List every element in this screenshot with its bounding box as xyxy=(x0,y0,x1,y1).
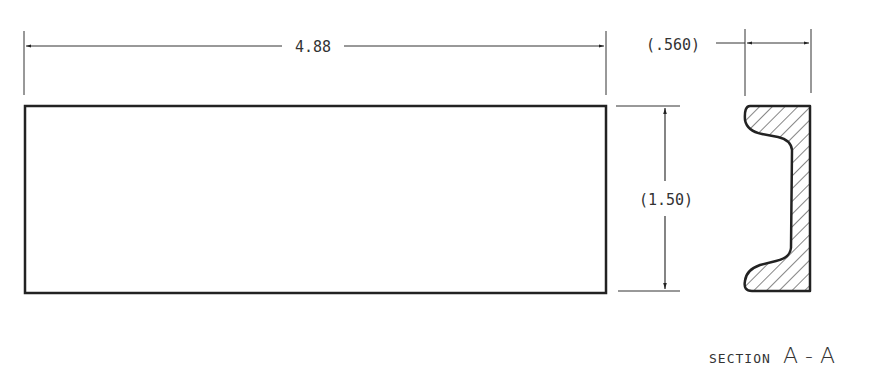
section-label-id: A - A xyxy=(783,343,835,368)
front-view-outline xyxy=(25,106,606,293)
technical-drawing: 4.88 (1.50) (.560) SECTION A - A xyxy=(0,0,889,388)
section-width-dimension xyxy=(716,29,811,96)
height-dimension-text: (1.50) xyxy=(639,191,693,209)
length-dimension-text: 4.88 xyxy=(295,38,331,56)
section-width-dimension-text: (.560) xyxy=(646,36,700,54)
section-profile xyxy=(745,106,810,291)
section-label-prefix: SECTION xyxy=(709,351,771,366)
